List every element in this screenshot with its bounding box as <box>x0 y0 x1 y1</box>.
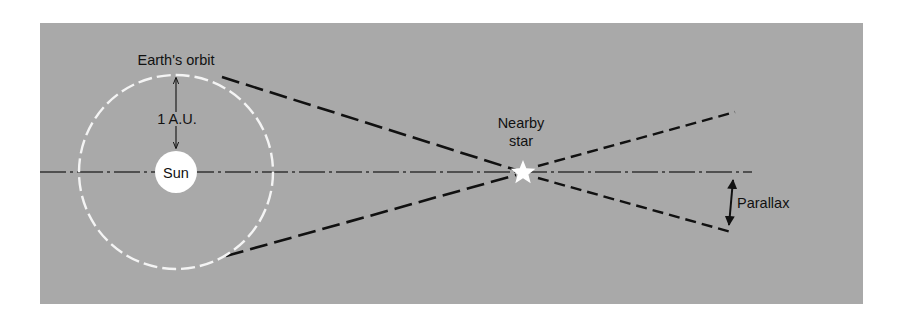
nearby-star-label-line2: star <box>509 133 533 149</box>
sun-label: Sun <box>163 165 189 181</box>
nearby-star-label-line1: Nearby <box>498 115 545 131</box>
parallax-label: Parallax <box>737 195 790 211</box>
sight-line-upper-beyond-star <box>538 112 735 166</box>
sight-line-lower-to-star <box>226 175 516 256</box>
parallax-figure: Earth's orbit 1 A.U. Sun Nearby star Par… <box>0 0 906 323</box>
earth-orbit-label: Earth's orbit <box>138 52 215 68</box>
parallax-diagram: Earth's orbit 1 A.U. Sun Nearby star Par… <box>0 0 906 323</box>
sight-line-lower-beyond-star <box>538 178 731 232</box>
sight-line-upper-to-star <box>222 77 516 170</box>
nearby-star-icon <box>511 160 536 183</box>
au-distance-label: 1 A.U. <box>157 111 197 127</box>
parallax-arrow <box>729 180 733 225</box>
